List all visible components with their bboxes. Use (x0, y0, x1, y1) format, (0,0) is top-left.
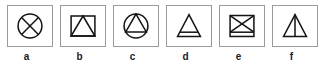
circle-with-x-icon (8, 6, 52, 46)
circle-with-triangle-icon (114, 6, 158, 46)
symbol-box-e (219, 5, 265, 47)
symbol-panel-e: e (212, 0, 265, 72)
symbol-label-b: b (53, 51, 106, 63)
symbol-label-d: d (159, 51, 212, 63)
symbol-label-f: f (265, 51, 318, 63)
symbol-label-a: a (0, 51, 53, 63)
symbol-box-a (7, 5, 53, 47)
symbol-legend-figure: a b c d (0, 0, 333, 72)
symbol-panel-c: c (106, 0, 159, 72)
symbol-box-f (272, 5, 318, 47)
symbol-box-b (60, 5, 106, 47)
symbol-panel-f: f (265, 0, 318, 72)
symbol-panel-a: a (0, 0, 53, 72)
triangle-with-vertical-bisector-icon (273, 6, 317, 46)
rectangle-with-x-and-base-band-icon (220, 6, 264, 46)
symbol-panel-b: b (53, 0, 106, 72)
symbol-box-d (166, 5, 212, 47)
symbol-label-e: e (212, 51, 265, 63)
symbol-label-c: c (106, 51, 159, 63)
triangle-with-base-band-icon (167, 6, 211, 46)
rectangle-with-triangle-icon (61, 6, 105, 46)
symbol-panel-d: d (159, 0, 212, 72)
symbol-box-c (113, 5, 159, 47)
